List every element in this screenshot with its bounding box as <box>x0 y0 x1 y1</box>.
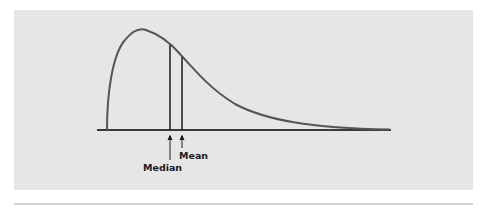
divider <box>14 203 473 205</box>
distribution-curve <box>107 29 390 130</box>
mean-arrow-icon <box>180 135 185 149</box>
median-arrow-icon <box>168 135 173 161</box>
mean-label: Mean <box>179 150 208 161</box>
distribution-figure: Mean Median <box>0 0 488 208</box>
median-label: Median <box>143 162 182 173</box>
